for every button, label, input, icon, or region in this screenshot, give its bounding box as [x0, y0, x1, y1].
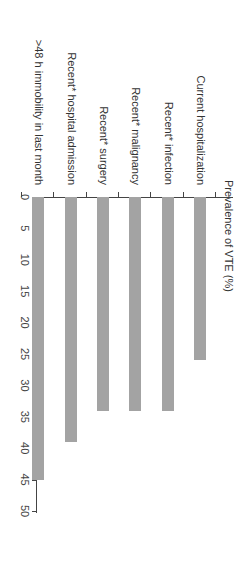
category-label: Recent* surgery [98, 106, 110, 185]
bar [97, 197, 109, 411]
value-tick-label: 25 [19, 344, 31, 364]
value-tick-label: 20 [19, 313, 31, 333]
value-tick-label: 35 [19, 407, 31, 427]
bar [65, 197, 77, 442]
category-label: >48 h immobility in last month [33, 40, 45, 185]
bar [129, 197, 141, 411]
category-label: Current hospitalization [195, 76, 207, 185]
value-tick-label: 45 [19, 470, 31, 490]
category-label: Recent* malignancy [130, 87, 142, 185]
value-tick-label: 50 [19, 501, 31, 521]
value-tick-label: 5 [19, 218, 31, 238]
value-tick [32, 480, 37, 481]
category-tick [86, 192, 87, 197]
bar [162, 197, 174, 411]
category-label: Recent* infection [163, 102, 175, 185]
value-tick-label: 10 [19, 250, 31, 270]
value-tick-label: 40 [19, 438, 31, 458]
category-tick [183, 192, 184, 197]
value-tick-label: 15 [19, 281, 31, 301]
bar [32, 197, 44, 480]
value-tick-label: 30 [19, 375, 31, 395]
bar [194, 197, 206, 360]
category-tick [150, 192, 151, 197]
category-tick [53, 192, 54, 197]
category-tick [215, 192, 216, 197]
chart-canvas: Prevalence of VTE (%) 051015202530354045… [0, 0, 241, 573]
category-label: Recent* hospital admission [66, 52, 78, 185]
value-tick [32, 511, 37, 512]
category-tick [118, 192, 119, 197]
value-tick-label: 0 [19, 187, 31, 207]
category-tick [21, 192, 22, 197]
